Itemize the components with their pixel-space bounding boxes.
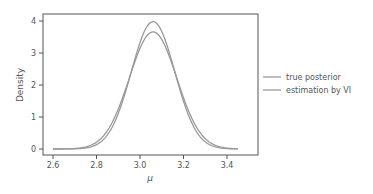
x-axis-label: μ xyxy=(146,173,153,183)
y-axis-ticks: 01234 xyxy=(31,17,43,154)
density-chart: 01234 2.62.83.03.23.4 μ Density true pos… xyxy=(0,0,373,194)
plot-frame xyxy=(43,14,258,155)
y-tick-label: 3 xyxy=(31,49,36,58)
y-tick-label: 2 xyxy=(31,81,36,90)
y-tick-label: 0 xyxy=(31,145,36,154)
y-tick-label: 4 xyxy=(31,17,36,26)
y-tick-label: 1 xyxy=(31,113,36,122)
legend-label-vi: estimation by VI xyxy=(286,86,351,95)
y-axis-label: Density xyxy=(15,67,25,102)
legend: true posterior estimation by VI xyxy=(263,73,351,95)
x-tick-label: 3.2 xyxy=(177,161,190,170)
curve-vi-estimation xyxy=(53,32,238,149)
x-tick-label: 3.0 xyxy=(134,161,147,170)
x-tick-label: 3.4 xyxy=(221,161,234,170)
curve-true-posterior xyxy=(53,22,238,149)
x-tick-label: 2.8 xyxy=(90,161,103,170)
density-curves xyxy=(53,22,238,149)
x-axis-ticks: 2.62.83.03.23.4 xyxy=(47,155,234,170)
x-tick-label: 2.6 xyxy=(47,161,60,170)
legend-label-true-posterior: true posterior xyxy=(286,73,342,82)
